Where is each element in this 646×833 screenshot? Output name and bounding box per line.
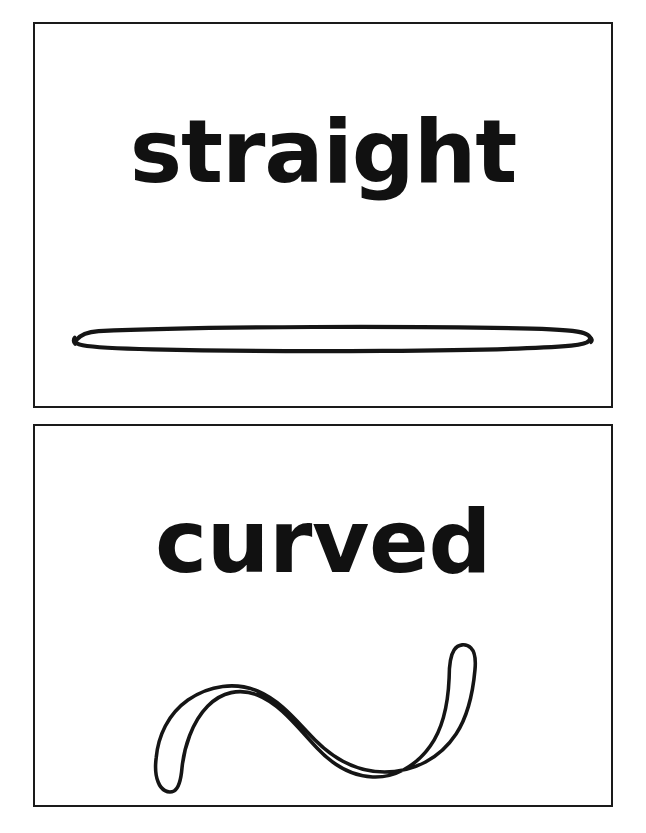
worksheet-sheet: straight curved: [0, 0, 646, 833]
flashcard-straight[interactable]: straight: [33, 22, 613, 408]
straight-line-rod-drawing: [35, 304, 611, 374]
curved-line-wave-drawing: [35, 636, 611, 806]
straight-line-svg: [35, 304, 611, 374]
card-word-straight: straight: [35, 108, 611, 196]
card-word-curved: curved: [35, 498, 611, 586]
curved-line-svg: [35, 636, 611, 806]
flashcard-curved[interactable]: curved: [33, 424, 613, 807]
